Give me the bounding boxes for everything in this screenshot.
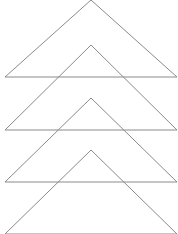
triangle-4 (5, 150, 177, 234)
triangle-2 (5, 45, 177, 130)
triangle-1 (5, 0, 177, 77)
triangle-3 (5, 98, 177, 182)
stacked-triangles-diagram (0, 0, 178, 234)
